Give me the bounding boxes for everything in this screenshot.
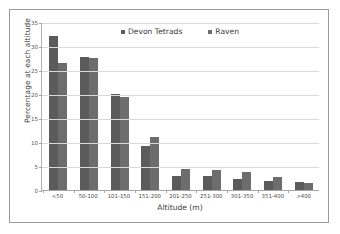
x-axis-tick-label: <50 <box>42 193 73 199</box>
bar-raven <box>58 63 67 190</box>
x-axis-tick-label: >400 <box>288 193 319 199</box>
y-axis-tick-label: 15 <box>24 116 38 122</box>
x-axis-title: Altitude (m) <box>41 203 319 212</box>
bar-devon-tetrads <box>172 176 181 190</box>
legend-item: Raven <box>208 27 239 36</box>
bar-devon-tetrads <box>264 181 273 190</box>
bar-raven <box>150 137 159 190</box>
bar-devon-tetrads <box>111 94 120 190</box>
gridline <box>42 143 319 144</box>
gridline <box>42 119 319 120</box>
gridline <box>42 167 319 168</box>
legend-label: Devon Tetrads <box>128 27 182 36</box>
gridline <box>42 23 319 24</box>
bar-group <box>74 23 105 190</box>
bar-group <box>258 23 289 190</box>
y-axis-tick-label: 20 <box>24 92 38 98</box>
bar-group <box>196 23 227 190</box>
bar-group <box>288 23 319 190</box>
x-axis-tick-label: 351-400 <box>257 193 288 199</box>
bar-raven <box>89 58 98 190</box>
gridline <box>42 95 319 96</box>
legend-swatch-icon <box>121 30 125 34</box>
gridline <box>42 71 319 72</box>
x-axis-tick-label: 301-350 <box>227 193 258 199</box>
bar-group <box>227 23 258 190</box>
y-axis-tick-label: 5 <box>24 164 38 170</box>
bar-raven <box>212 170 221 190</box>
bar-raven <box>242 172 251 190</box>
bar-raven <box>304 183 313 190</box>
x-axis-tick-label: 50-100 <box>73 193 104 199</box>
bar-devon-tetrads <box>203 176 212 190</box>
y-axis-tick-label: 0 <box>24 188 38 194</box>
bar-group <box>135 23 166 190</box>
bar-devon-tetrads <box>233 179 242 190</box>
plot-grid <box>41 23 319 191</box>
y-axis-tick-label: 30 <box>24 44 38 50</box>
y-axis-tick-label: 10 <box>24 140 38 146</box>
legend-item: Devon Tetrads <box>121 27 182 36</box>
y-axis-tick-mark <box>39 95 42 96</box>
y-axis-tick-mark <box>39 47 42 48</box>
legend-label: Raven <box>215 27 239 36</box>
bar-group <box>43 23 74 190</box>
y-axis-tick-label: 35 <box>24 20 38 26</box>
bar-groups <box>43 23 319 190</box>
chart-frame: Percentage at each altitude 051015202530… <box>9 9 329 223</box>
x-axis-tick-label: 201-250 <box>165 193 196 199</box>
y-axis-tick-mark <box>39 143 42 144</box>
x-axis-tick-label: 251-300 <box>196 193 227 199</box>
bar-devon-tetrads <box>141 146 150 190</box>
x-axis-tick-labels: <5050-100101-150151-200201-250251-300301… <box>42 193 319 199</box>
y-axis-tick-mark <box>39 119 42 120</box>
x-axis-tick-label: 101-150 <box>104 193 135 199</box>
bar-raven <box>181 169 190 190</box>
bar-raven <box>273 177 282 190</box>
y-axis-tick-mark <box>39 167 42 168</box>
y-axis-tick-mark <box>39 191 42 192</box>
gridline <box>42 47 319 48</box>
chart-legend: Devon TetradsRaven <box>41 27 319 36</box>
y-axis-tick-mark <box>39 23 42 24</box>
legend-swatch-icon <box>208 30 212 34</box>
bar-devon-tetrads <box>295 182 304 190</box>
x-axis-tick-label: 151-200 <box>134 193 165 199</box>
bar-group <box>104 23 135 190</box>
y-axis-tick-label: 25 <box>24 68 38 74</box>
bar-group <box>166 23 197 190</box>
y-axis-tick-mark <box>39 71 42 72</box>
chart-plot-area: Percentage at each altitude 051015202530… <box>10 10 328 222</box>
y-axis-tick-labels: 05101520253035 <box>26 23 40 191</box>
bar-devon-tetrads <box>80 57 89 190</box>
